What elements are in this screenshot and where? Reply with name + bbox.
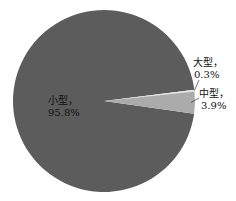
label-small-value: 95.8% (48, 107, 80, 118)
pie-chart: 小型， 95.8% 大型， 0.3% 中型， 3.9% (0, 0, 236, 201)
label-medium-value: 3.9% (201, 100, 226, 111)
label-small-name: 小型， (48, 94, 78, 106)
label-large-name: 大型， (193, 56, 223, 68)
label-large-value: 0.3% (194, 69, 219, 80)
label-medium-name: 中型， (199, 87, 229, 99)
